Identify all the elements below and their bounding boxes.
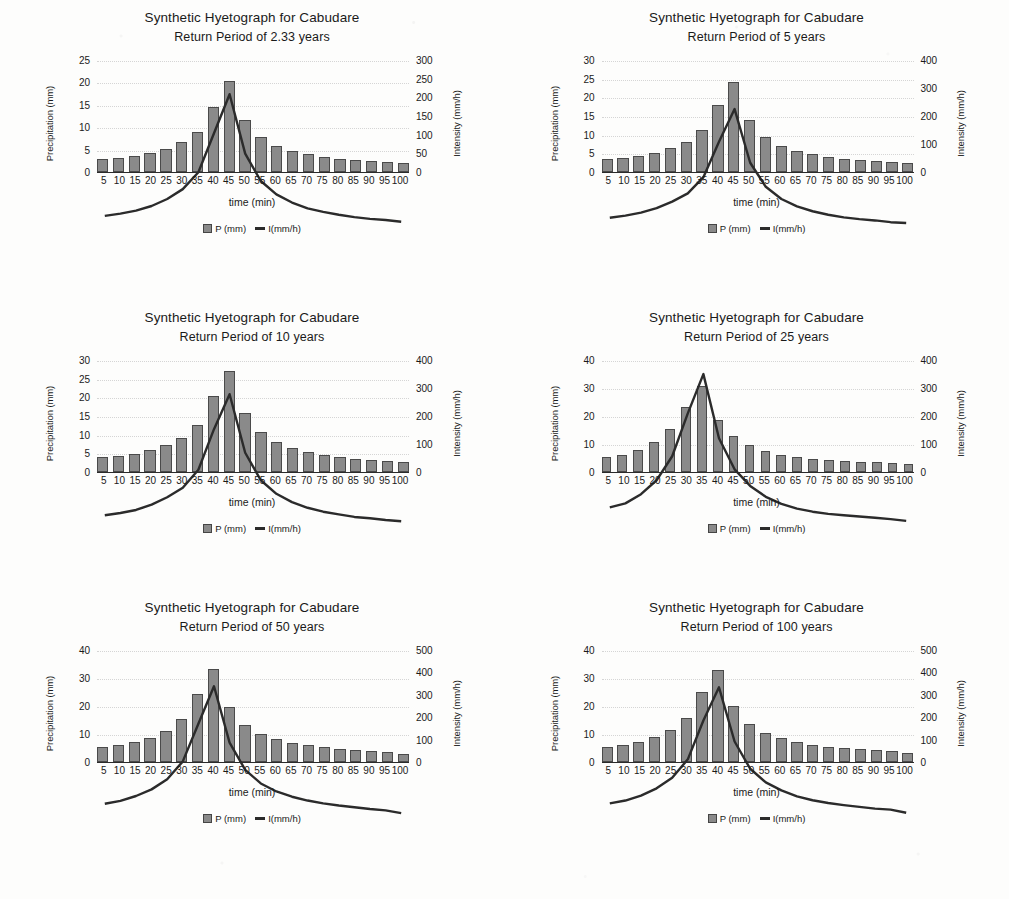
y-axis-left-tick: 15 — [59, 101, 93, 111]
y-axis-right-tick: 0 — [413, 168, 447, 178]
y-axis-left-tick: 25 — [59, 375, 93, 385]
x-axis-title: time (min) — [542, 786, 972, 798]
y-axis-left-title-text: Precipitation (mm) — [549, 676, 560, 751]
plot-canvas — [602, 361, 914, 473]
y-axis-left-tick: 0 — [564, 468, 598, 478]
bar-swatch-icon — [203, 224, 212, 233]
y-axis-right-tick: 300 — [413, 384, 447, 394]
x-axis-ticks: 5101520253035404550556065707580859095100 — [602, 475, 914, 486]
y-axis-right-tick: 200 — [413, 713, 447, 723]
y-axis-right-tick: 100 — [413, 736, 447, 746]
legend-label-precipitation: P (mm) — [215, 813, 246, 824]
y-axis-right-tick: 250 — [413, 75, 447, 85]
chart-subtitle: Return Period of 100 years — [504, 618, 1009, 637]
plot-area: Precipitation (mm)Intensity (mm/h)051015… — [37, 353, 467, 553]
y-axis-right-tick: 0 — [918, 468, 952, 478]
y-axis-right-tick: 200 — [918, 412, 952, 422]
y-axis-left-tick: 20 — [564, 412, 598, 422]
intensity-line-series — [602, 61, 914, 236]
chart-legend: P (mm)I(mm/h) — [37, 223, 467, 234]
y-axis-left-tick: 5 — [59, 146, 93, 156]
legend-item-precipitation: P (mm) — [708, 523, 751, 534]
chart-titles: Synthetic Hyetograph for CabudareReturn … — [504, 300, 1009, 347]
y-axis-left-tick: 20 — [564, 702, 598, 712]
legend-item-intensity: I(mm/h) — [255, 523, 301, 534]
y-axis-left-title-text: Precipitation (mm) — [45, 86, 56, 161]
y-axis-right-tick: 100 — [918, 140, 952, 150]
y-axis-right-tick: 150 — [413, 112, 447, 122]
y-axis-right-tick: 400 — [413, 668, 447, 678]
x-axis-tick: 100 — [896, 175, 914, 186]
y-axis-right-tick: 100 — [413, 440, 447, 450]
legend-item-precipitation: P (mm) — [708, 223, 751, 234]
intensity-line-series — [602, 361, 914, 536]
chart-title: Synthetic Hyetograph for Cabudare — [0, 598, 504, 618]
legend-label-intensity: I(mm/h) — [268, 813, 301, 824]
y-axis-left-tick: 10 — [59, 730, 93, 740]
legend-item-precipitation: P (mm) — [708, 813, 751, 824]
y-axis-right-title: Intensity (mm/h) — [954, 361, 968, 486]
y-axis-left-ticks: 010203040 — [564, 361, 598, 473]
y-axis-left-tick: 5 — [564, 149, 598, 159]
x-axis-title: time (min) — [37, 786, 467, 798]
y-axis-right-tick: 200 — [918, 713, 952, 723]
chart-title: Synthetic Hyetograph for Cabudare — [504, 598, 1009, 618]
x-axis-ticks: 5101520253035404550556065707580859095100 — [97, 765, 409, 776]
chart-subtitle: Return Period of 10 years — [0, 328, 504, 347]
chart-4: Synthetic Hyetograph for CabudareReturn … — [504, 300, 1009, 590]
legend-item-precipitation: P (mm) — [203, 223, 246, 234]
y-axis-right-tick: 0 — [413, 758, 447, 768]
y-axis-left-title-text: Precipitation (mm) — [549, 86, 560, 161]
y-axis-left-title-text: Precipitation (mm) — [45, 386, 56, 461]
hyetograph-chart-grid: Synthetic Hyetograph for CabudareReturn … — [0, 0, 1009, 899]
y-axis-left-tick: 30 — [564, 56, 598, 66]
bar-swatch-icon — [708, 524, 717, 533]
chart-legend: P (mm)I(mm/h) — [37, 813, 467, 824]
chart-1: Synthetic Hyetograph for CabudareReturn … — [0, 0, 504, 300]
y-axis-right-tick: 100 — [918, 440, 952, 450]
y-axis-left-tick: 0 — [59, 168, 93, 178]
chart-legend: P (mm)I(mm/h) — [542, 223, 972, 234]
y-axis-right-tick: 100 — [413, 131, 447, 141]
y-axis-left-tick: 10 — [59, 123, 93, 133]
y-axis-left-tick: 10 — [564, 730, 598, 740]
y-axis-left-tick: 25 — [59, 56, 93, 66]
y-axis-right-title: Intensity (mm/h) — [954, 61, 968, 186]
y-axis-right-title-text: Intensity (mm/h) — [955, 90, 966, 157]
chart-subtitle: Return Period of 25 years — [504, 328, 1009, 347]
legend-label-precipitation: P (mm) — [215, 223, 246, 234]
plot-canvas — [602, 61, 914, 173]
y-axis-right-tick: 400 — [413, 356, 447, 366]
chart-5: Synthetic Hyetograph for CabudareReturn … — [0, 590, 504, 899]
chart-title: Synthetic Hyetograph for Cabudare — [0, 308, 504, 328]
chart-title: Synthetic Hyetograph for Cabudare — [504, 8, 1009, 28]
y-axis-right-tick: 100 — [918, 736, 952, 746]
chart-titles: Synthetic Hyetograph for CabudareReturn … — [504, 0, 1009, 47]
y-axis-right-tick: 500 — [918, 646, 952, 656]
y-axis-right-ticks: 0100200300400 — [918, 61, 952, 173]
legend-label-precipitation: P (mm) — [720, 223, 751, 234]
y-axis-left-title-text: Precipitation (mm) — [549, 386, 560, 461]
y-axis-left-tick: 40 — [59, 646, 93, 656]
x-axis-ticks: 5101520253035404550556065707580859095100 — [97, 475, 409, 486]
y-axis-right-tick: 200 — [413, 412, 447, 422]
legend-item-intensity: I(mm/h) — [760, 813, 806, 824]
y-axis-right-ticks: 0100200300400 — [918, 361, 952, 473]
chart-6: Synthetic Hyetograph for CabudareReturn … — [504, 590, 1009, 899]
y-axis-left-tick: 0 — [564, 168, 598, 178]
x-axis-ticks: 5101520253035404550556065707580859095100 — [602, 765, 914, 776]
x-axis-title: time (min) — [37, 496, 467, 508]
line-swatch-icon — [255, 527, 265, 530]
y-axis-right-tick: 200 — [413, 93, 447, 103]
y-axis-right-title-text: Intensity (mm/h) — [955, 680, 966, 747]
plot-area: Precipitation (mm)Intensity (mm/h)010203… — [542, 353, 972, 553]
chart-title: Synthetic Hyetograph for Cabudare — [504, 308, 1009, 328]
chart-3: Synthetic Hyetograph for CabudareReturn … — [0, 300, 504, 590]
chart-subtitle: Return Period of 50 years — [0, 618, 504, 637]
line-swatch-icon — [760, 817, 770, 820]
y-axis-left-ticks: 051015202530 — [59, 361, 93, 473]
y-axis-right-ticks: 0100200300400500 — [918, 651, 952, 763]
bar-swatch-icon — [708, 224, 717, 233]
y-axis-left-tick: 30 — [564, 674, 598, 684]
plot-area: Precipitation (mm)Intensity (mm/h)051015… — [37, 53, 467, 253]
